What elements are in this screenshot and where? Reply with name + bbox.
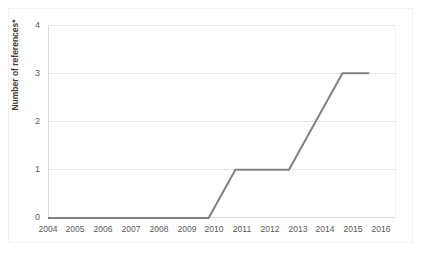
series-layer [0, 0, 421, 255]
chart-figure: 4 3 2 1 0 Number of references* 2004 200… [0, 0, 421, 255]
series-line-number-of-references [48, 73, 369, 218]
